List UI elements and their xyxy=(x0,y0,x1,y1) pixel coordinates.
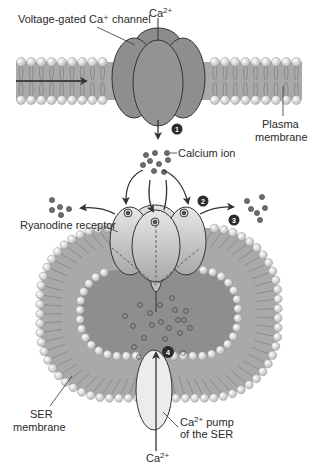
lipid-head xyxy=(57,95,66,104)
calcium-ion xyxy=(259,194,264,199)
lipid-head xyxy=(80,287,88,295)
lipid-head xyxy=(77,325,85,333)
lipid-head xyxy=(210,394,218,402)
lipid-head xyxy=(44,356,52,364)
svg-text:3: 3 xyxy=(232,217,236,224)
lipid-head xyxy=(223,340,231,348)
lipid-head xyxy=(228,389,236,397)
lipid-head xyxy=(292,57,301,66)
lipid-head xyxy=(86,391,94,399)
lipid-head xyxy=(122,352,130,360)
lipid-head xyxy=(36,300,44,308)
lipid-head xyxy=(191,394,199,402)
lipid-head xyxy=(271,342,279,350)
lipid-head xyxy=(274,304,282,312)
lipid-head xyxy=(261,57,270,66)
lipid-head xyxy=(216,346,224,354)
calcium-ion xyxy=(66,206,71,211)
calcium-ion xyxy=(152,150,157,155)
lipid-head xyxy=(47,95,56,104)
lipid-head xyxy=(113,352,121,360)
lipid-head xyxy=(115,394,123,402)
lipid-head xyxy=(37,281,45,289)
lipid-head xyxy=(43,263,51,271)
lipid-head xyxy=(53,247,61,255)
step-badge-2: 2 xyxy=(198,196,209,207)
calcium-ion xyxy=(147,158,152,163)
lipid-head xyxy=(124,394,132,402)
lipid-head xyxy=(233,324,241,332)
lipid-head xyxy=(264,259,272,267)
lipid-head xyxy=(220,95,229,104)
lipid-head xyxy=(241,57,250,66)
calcium-ion xyxy=(156,161,161,166)
lipid-head xyxy=(209,268,217,276)
calcium-ion xyxy=(151,168,156,173)
release-arrow-left xyxy=(81,208,115,214)
calcium-ion xyxy=(257,217,262,222)
calcium-ion xyxy=(140,162,145,167)
lipid-head xyxy=(36,291,44,299)
lipid-head xyxy=(36,319,44,327)
flow-arrow-2a xyxy=(126,170,143,203)
voltage-gated-channel xyxy=(112,28,205,126)
calcium-ion xyxy=(49,197,54,202)
lipid-head xyxy=(54,371,62,379)
svg-text:4: 4 xyxy=(166,349,170,356)
lipid-head xyxy=(241,95,250,104)
calcium-ion xyxy=(58,212,63,217)
lipid-head xyxy=(98,95,107,104)
svg-text:2: 2 xyxy=(201,198,205,205)
ca-top-label: Ca2+ xyxy=(149,6,173,19)
lipid-head xyxy=(210,95,219,104)
lipid-head xyxy=(76,230,84,238)
lipid-head xyxy=(49,364,57,372)
lipid-head xyxy=(16,95,25,104)
lipid-head xyxy=(274,314,282,322)
lipid-head xyxy=(199,266,207,274)
lipid-head xyxy=(230,286,238,294)
lipid-head xyxy=(57,57,66,66)
lipid-head xyxy=(77,296,85,304)
calcium-ion xyxy=(262,205,267,210)
lipid-head xyxy=(69,383,77,391)
lipid-head xyxy=(172,394,180,402)
lipid-head xyxy=(219,392,227,400)
lipid-head xyxy=(264,360,272,368)
lipid-head xyxy=(229,332,237,340)
lipid-head xyxy=(198,352,206,360)
lipid-head xyxy=(220,226,228,234)
calcium-ion-label: Calcium ion xyxy=(178,147,235,159)
lipid-head xyxy=(252,374,260,382)
lipid-head xyxy=(76,306,84,314)
lipid-head xyxy=(210,224,218,232)
ca-pump xyxy=(136,350,172,430)
calcium-ion xyxy=(254,210,259,215)
lipid-head xyxy=(39,272,47,280)
ser-leader xyxy=(50,376,72,406)
lipid-head xyxy=(67,57,76,66)
plasma-label-2: membrane xyxy=(255,131,308,143)
lipid-head xyxy=(253,244,261,252)
lipid-head xyxy=(27,57,36,66)
lipid-head xyxy=(268,351,276,359)
lipid-head xyxy=(292,95,301,104)
lipid-head xyxy=(261,95,270,104)
lipid-head xyxy=(78,388,86,396)
lipid-head xyxy=(273,285,281,293)
lipid-head xyxy=(259,251,267,259)
lipid-head xyxy=(103,350,111,358)
lipid-head xyxy=(88,95,97,104)
lipid-head xyxy=(231,57,240,66)
lipid-head xyxy=(68,235,76,243)
lipid-head xyxy=(274,295,282,303)
lipid-head xyxy=(200,394,208,402)
step-badge-1: 1 xyxy=(172,124,183,135)
calcium-ion xyxy=(244,198,249,203)
lipid-head xyxy=(207,350,215,358)
lipid-head xyxy=(100,268,108,276)
lipid-head xyxy=(220,57,229,66)
lipid-head xyxy=(81,333,89,341)
voltage-channel-label: Voltage-gated Ca⁺ channel xyxy=(18,13,151,25)
step-badge-3: 3 xyxy=(229,215,240,226)
